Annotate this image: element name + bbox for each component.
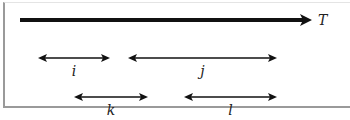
timeline-diagram: T ijkl: [0, 0, 350, 120]
interval-label: k: [107, 102, 115, 118]
time-axis-arrow: [20, 14, 312, 26]
interval-label: l: [228, 102, 232, 118]
interval-label: j: [197, 63, 205, 79]
interval-l: l: [184, 93, 277, 118]
time-axis-label: T: [318, 12, 329, 28]
interval-j: j: [128, 54, 277, 79]
interval-i: i: [38, 54, 110, 79]
interval-label: i: [72, 63, 76, 79]
interval-arrows: ijkl: [38, 54, 277, 118]
interval-k: k: [74, 93, 148, 118]
